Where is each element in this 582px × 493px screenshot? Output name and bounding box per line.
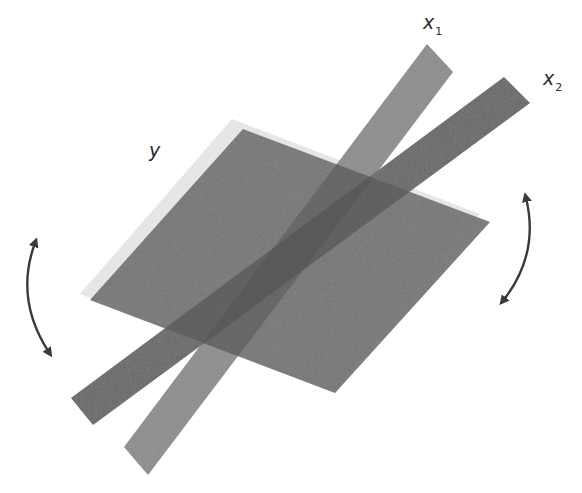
strip-x1-label-main: x [423, 11, 434, 33]
strip-x1-label: x1 [423, 13, 441, 32]
strip-x2-label-main: x [543, 67, 554, 89]
plane-y-label: y [149, 141, 160, 160]
left-rotation-arrow-icon [27, 243, 50, 354]
diagram-canvas [0, 0, 582, 493]
strip-x2-label: x2 [543, 69, 561, 88]
strip-x2-label-sub: 2 [555, 81, 562, 94]
right-rotation-arrow-icon [502, 198, 530, 302]
plane-y-label-main: y [149, 139, 160, 161]
strip-x1-label-sub: 1 [435, 25, 442, 38]
